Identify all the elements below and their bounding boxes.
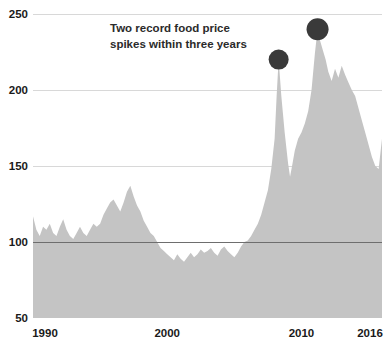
annotation-line-2: spikes within three years: [110, 38, 247, 50]
x-tick-label-1990: 1990: [32, 327, 58, 339]
x-tick-label-2010: 2010: [289, 327, 315, 339]
marker-spike-2008: [269, 50, 289, 70]
y-tick-label-150: 150: [9, 160, 28, 172]
area-fill-path: [33, 29, 382, 318]
series-area-food-price-index: [33, 29, 382, 318]
chart-canvas: 50100150200250 1990200020102016 Two reco…: [0, 0, 391, 348]
spike-callout-annotation: Two record food price spikes within thre…: [110, 22, 247, 50]
y-axis-tick-labels: 50100150200250: [9, 8, 28, 324]
annotation-line-1: Two record food price: [110, 22, 230, 34]
y-tick-label-200: 200: [9, 84, 28, 96]
x-tick-label-2016: 2016: [357, 327, 383, 339]
y-tick-label-100: 100: [9, 236, 28, 248]
x-axis-tick-labels: 1990200020102016: [32, 327, 383, 339]
food-price-index-chart: 50100150200250 1990200020102016 Two reco…: [0, 0, 391, 348]
y-tick-label-250: 250: [9, 8, 28, 20]
x-tick-label-2000: 2000: [154, 327, 180, 339]
marker-spike-2011: [307, 18, 329, 40]
y-tick-label-50: 50: [15, 312, 28, 324]
